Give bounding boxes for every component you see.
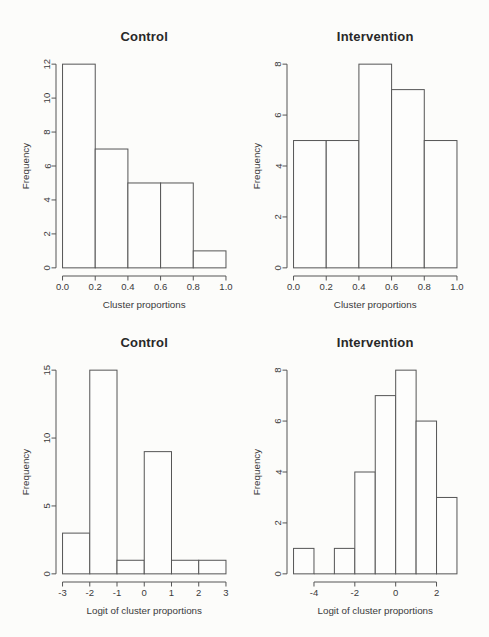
y-tick-label: 12 — [42, 59, 53, 70]
histogram-bar — [117, 560, 144, 574]
histogram-bar — [199, 560, 226, 574]
histogram-intervention-logit: -4-20202468InterventionLogit of cluster … — [245, 319, 489, 637]
panel-title: Control — [120, 29, 168, 44]
histogram-intervention-proportions: 0.00.20.40.60.81.002468InterventionClust… — [245, 0, 489, 319]
x-tick-label: 2 — [196, 586, 201, 597]
x-tick-label: -1 — [113, 586, 121, 597]
histogram-bar — [95, 149, 128, 268]
histogram-bar — [144, 451, 171, 573]
histogram-bar — [63, 64, 96, 268]
y-tick-label: 4 — [272, 163, 283, 168]
y-tick-label: 8 — [272, 62, 283, 67]
panel-intervention-logit: -4-20202468InterventionLogit of cluster … — [245, 319, 489, 637]
y-tick-label: 6 — [42, 163, 53, 168]
histogram-bar — [391, 90, 424, 268]
histogram-bar — [354, 472, 374, 574]
y-tick-label: 0 — [42, 571, 53, 576]
x-tick-label: 0.8 — [417, 281, 430, 292]
panel-intervention-proportions: 0.00.20.40.60.81.002468InterventionClust… — [245, 0, 489, 319]
histogram-bar — [128, 183, 161, 268]
x-tick-label: 1 — [169, 586, 174, 597]
histogram-bar — [171, 560, 198, 574]
y-tick-label: 15 — [42, 364, 53, 375]
histogram-control-proportions: 0.00.20.40.60.81.0024681012ControlCluste… — [0, 0, 245, 319]
y-tick-label: 5 — [42, 503, 53, 508]
figure-grid: 0.00.20.40.60.81.0024681012ControlCluste… — [0, 0, 489, 637]
histogram-bar — [293, 548, 313, 573]
histogram-bar — [416, 421, 436, 574]
y-tick-label: 10 — [42, 93, 53, 104]
panel-control-proportions: 0.00.20.40.60.81.0024681012ControlCluste… — [0, 0, 245, 319]
x-tick-label: 0.6 — [384, 281, 397, 292]
y-tick-label: 8 — [42, 129, 53, 134]
x-axis-label: Cluster proportions — [103, 299, 186, 310]
panel-title: Intervention — [336, 29, 413, 44]
histogram-bar — [395, 370, 415, 574]
y-tick-label: 0 — [42, 265, 53, 270]
histogram-bar — [326, 141, 359, 268]
y-axis-label: Frequency — [20, 448, 31, 494]
histogram-bar — [436, 497, 456, 573]
x-tick-label: -4 — [309, 586, 317, 597]
y-tick-label: 8 — [272, 367, 283, 372]
histogram-bar — [193, 251, 226, 268]
x-tick-label: -3 — [58, 586, 66, 597]
x-tick-label: 3 — [223, 586, 228, 597]
y-tick-label: 4 — [42, 197, 53, 202]
histogram-bar — [334, 548, 354, 573]
histogram-bar — [63, 533, 90, 574]
histogram-control-logit: -3-2-10123051015ControlLogit of cluster … — [0, 319, 245, 637]
histogram-bar — [161, 183, 194, 268]
x-tick-label: 0.8 — [187, 281, 200, 292]
x-axis-label: Logit of cluster proportions — [87, 605, 203, 616]
histogram-bar — [90, 370, 117, 574]
x-tick-label: 0.2 — [319, 281, 332, 292]
y-axis-label: Frequency — [20, 143, 31, 189]
x-tick-label: 0 — [393, 586, 398, 597]
x-tick-label: 0.0 — [286, 281, 299, 292]
y-tick-label: 2 — [272, 214, 283, 219]
x-tick-label: 1.0 — [450, 281, 463, 292]
y-tick-label: 10 — [42, 432, 53, 443]
y-tick-label: 2 — [272, 520, 283, 525]
y-axis-label: Frequency — [251, 143, 262, 189]
histogram-bar — [358, 64, 391, 268]
panel-title: Intervention — [336, 335, 413, 350]
x-tick-label: 0.0 — [56, 281, 69, 292]
histogram-bar — [375, 395, 395, 573]
x-tick-label: 1.0 — [219, 281, 232, 292]
x-tick-label: 2 — [433, 586, 438, 597]
x-tick-label: -2 — [350, 586, 358, 597]
x-tick-label: 0 — [142, 586, 147, 597]
y-tick-label: 4 — [272, 469, 283, 474]
histogram-bar — [293, 141, 326, 268]
x-tick-label: 0.2 — [89, 281, 102, 292]
y-tick-label: 2 — [42, 231, 53, 236]
y-axis-label: Frequency — [251, 448, 262, 494]
panel-control-logit: -3-2-10123051015ControlLogit of cluster … — [0, 319, 245, 637]
x-tick-label: -2 — [86, 586, 94, 597]
x-axis-label: Logit of cluster proportions — [317, 605, 433, 616]
panel-title: Control — [120, 335, 168, 350]
y-tick-label: 0 — [272, 265, 283, 270]
y-tick-label: 6 — [272, 418, 283, 423]
x-tick-label: 0.6 — [154, 281, 167, 292]
y-tick-label: 0 — [272, 571, 283, 576]
x-axis-label: Cluster proportions — [333, 299, 416, 310]
x-tick-label: 0.4 — [352, 281, 365, 292]
x-tick-label: 0.4 — [121, 281, 134, 292]
y-tick-label: 6 — [272, 112, 283, 117]
histogram-bar — [424, 141, 457, 268]
